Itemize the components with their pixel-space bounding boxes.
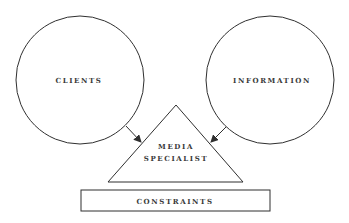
media-specialist-label-line2: SPECIALIST	[144, 154, 208, 163]
media-specialist-label-line1: MEDIA	[158, 142, 194, 151]
information-arrow	[211, 127, 226, 142]
clients-label: CLIENTS	[56, 76, 103, 85]
diagram-canvas	[0, 0, 349, 223]
constraints-label: CONSTRAINTS	[136, 197, 213, 206]
clients-arrow	[126, 126, 141, 142]
information-label: INFORMATION	[233, 76, 311, 85]
